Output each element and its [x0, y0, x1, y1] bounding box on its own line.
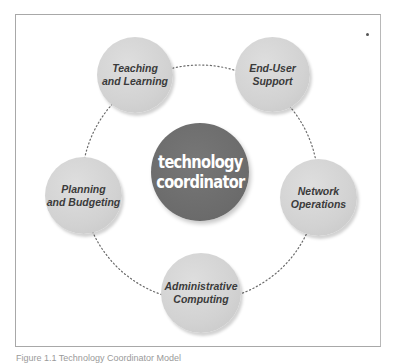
- node-planning-and-budgeting: Planning and Budgeting: [45, 157, 122, 234]
- center-node-technology-coordinator: technology coordinator: [151, 123, 249, 221]
- stray-dot: [366, 33, 369, 36]
- node-administrative-computing: Administrative Computing: [161, 253, 241, 333]
- node-label: Network Operations: [291, 185, 346, 211]
- node-teaching-and-learning: Teaching and Learning: [97, 37, 173, 113]
- node-label: Administrative Computing: [165, 280, 238, 306]
- center-label: technology coordinator: [156, 152, 244, 192]
- figure-caption: Figure 1.1 Technology Coordinator Model: [16, 353, 181, 363]
- node-label: Planning and Budgeting: [47, 183, 121, 209]
- node-end-user-support: End-User Support: [235, 37, 310, 112]
- node-label: Teaching and Learning: [102, 62, 168, 88]
- node-network-operations: Network Operations: [280, 159, 357, 236]
- node-label: End-User Support: [249, 62, 296, 88]
